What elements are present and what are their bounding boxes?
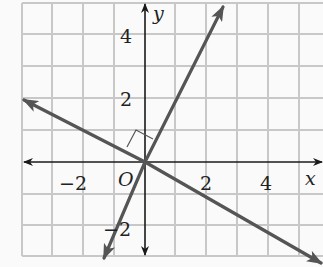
x-tick-4: 4 [260, 172, 272, 194]
grid [22, 3, 323, 256]
x-tick-neg2: −2 [59, 172, 87, 194]
y-tick-neg2: −2 [103, 218, 131, 240]
labels: y x O 4 2 −2 −2 2 4 [59, 2, 316, 240]
y-tick-4: 4 [120, 25, 132, 47]
graph-svg: y x O 4 2 −2 −2 2 4 [0, 0, 323, 267]
x-axis-label: x [305, 167, 316, 189]
right-angle-marker [127, 130, 153, 147]
y-tick-2: 2 [120, 88, 132, 110]
y-axis-label: y [152, 2, 164, 24]
coordinate-plane: y x O 4 2 −2 −2 2 4 [0, 0, 323, 267]
line-slope-2 [145, 7, 223, 162]
origin-label: O [118, 168, 134, 190]
x-tick-2: 2 [200, 172, 212, 194]
